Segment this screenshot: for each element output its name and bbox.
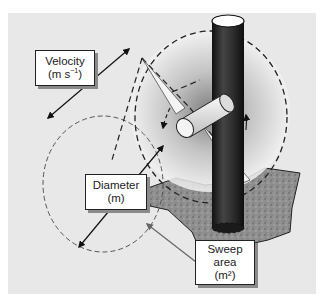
- velocity-label: Velocity (m s−1): [35, 50, 95, 86]
- diameter-label-unit: (m): [107, 192, 124, 205]
- sweep-area-label-line1: Sweep: [207, 243, 242, 256]
- rotation-arrow-right: [246, 115, 247, 130]
- tower-pole-base: [212, 223, 244, 233]
- sweep-area-label-unit: (m²): [214, 269, 235, 282]
- velocity-label-unit: (m s−1): [48, 68, 82, 81]
- tower-pole: [212, 20, 244, 228]
- sweep-area-label: Sweep area (m²): [195, 240, 255, 285]
- diameter-label: Diameter (m): [85, 174, 147, 210]
- diameter-label-title: Diameter: [93, 179, 140, 192]
- diagram: Velocity (m s−1) Diameter (m) Sweep area…: [0, 0, 326, 302]
- tower-pole-top: [212, 15, 244, 27]
- sweep-area-label-line2: area: [213, 256, 236, 269]
- diagram-canvas: [0, 0, 326, 302]
- velocity-label-title: Velocity: [45, 55, 85, 68]
